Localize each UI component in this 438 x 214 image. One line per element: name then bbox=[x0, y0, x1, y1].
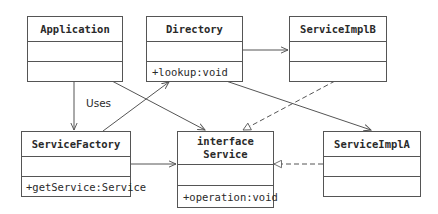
attributes-section bbox=[290, 42, 386, 62]
realization-serviceimplb-service bbox=[243, 81, 335, 130]
class-name: ServiceImplB bbox=[300, 23, 376, 36]
class-name-header: Application bbox=[28, 17, 122, 42]
class-name: ServiceFactory bbox=[32, 138, 121, 151]
class-serviceimpla[interactable]: ServiceImplA bbox=[323, 131, 421, 197]
class-name-header: interface Service bbox=[178, 132, 273, 165]
class-name: Service bbox=[203, 148, 247, 161]
uml-class-diagram: Uses Application Directory +lookup:void … bbox=[0, 0, 438, 214]
operations-section: +lookup:void bbox=[147, 62, 242, 81]
uses-label: Uses bbox=[86, 97, 111, 109]
class-servicefactory[interactable]: ServiceFactory +getService:Service bbox=[21, 131, 131, 197]
attributes-section bbox=[324, 157, 420, 177]
operations-section: +getService:Service bbox=[22, 177, 130, 196]
class-serviceimplb[interactable]: ServiceImplB bbox=[289, 16, 387, 82]
attributes-section bbox=[178, 165, 273, 186]
class-name-header: Directory bbox=[147, 17, 242, 42]
operations-section: +operation:void bbox=[178, 186, 273, 207]
class-name-header: ServiceImplA bbox=[324, 132, 420, 157]
operations-section bbox=[324, 177, 420, 196]
class-name: ServiceImplA bbox=[334, 138, 410, 151]
class-name-header: ServiceImplB bbox=[290, 17, 386, 42]
association-servicefactory-directory bbox=[103, 82, 169, 131]
attributes-section bbox=[22, 157, 130, 177]
stereotype-label: interface bbox=[197, 135, 254, 148]
attributes-section bbox=[28, 42, 122, 62]
association-application-service bbox=[112, 81, 205, 130]
class-application[interactable]: Application bbox=[27, 16, 123, 82]
operations-section bbox=[28, 62, 122, 81]
operations-section bbox=[290, 62, 386, 81]
class-name: Directory bbox=[166, 23, 223, 36]
class-service-interface[interactable]: interface Service +operation:void bbox=[177, 131, 274, 208]
class-directory[interactable]: Directory +lookup:void bbox=[146, 16, 243, 82]
class-name: Application bbox=[40, 23, 110, 36]
class-name-header: ServiceFactory bbox=[22, 132, 130, 157]
attributes-section bbox=[147, 42, 242, 62]
association-directory-serviceimpla bbox=[226, 81, 371, 130]
